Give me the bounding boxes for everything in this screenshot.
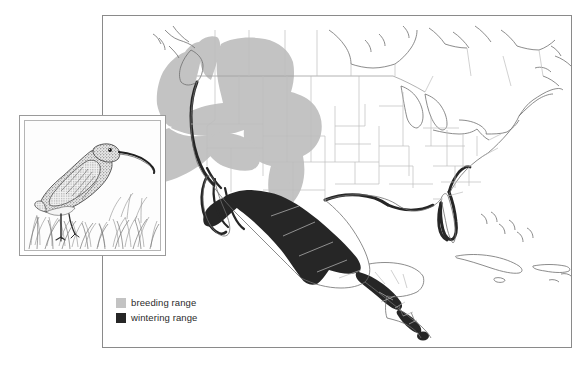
legend-item-breeding: breeding range <box>116 296 197 309</box>
legend-label-wintering: wintering range <box>131 312 197 323</box>
map-legend: breeding range wintering range <box>116 296 197 326</box>
range-map-figure: breeding range wintering range <box>0 0 583 367</box>
wintering-range-swatch <box>116 313 126 323</box>
inset-inner-frame <box>24 120 161 251</box>
legend-item-wintering: wintering range <box>116 311 197 324</box>
bird-illustration-inset <box>19 115 166 256</box>
breeding-range-swatch <box>116 298 126 308</box>
legend-label-breeding: breeding range <box>131 297 196 308</box>
curlew-drawing <box>25 121 160 250</box>
